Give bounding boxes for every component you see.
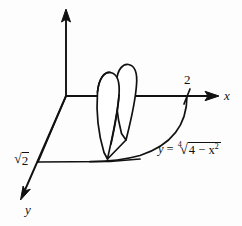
y-axis-label: y <box>25 203 31 216</box>
radical-index: 4 <box>178 141 182 149</box>
radicand-exponent: 2 <box>215 142 219 151</box>
figure-drawing <box>0 0 242 226</box>
figure-canvas: x y 2 √ 2 y = 4 √ 4 − x2 <box>0 0 242 226</box>
curve-equation-label: y = 4 √ 4 − x2 <box>158 140 221 157</box>
sqrt-radicand: 2 <box>22 152 30 168</box>
radicand: 4 − x2 <box>188 142 221 157</box>
base-region-left-edge <box>38 96 66 162</box>
x-axis-label: x <box>224 89 230 102</box>
equation-lhs: y <box>158 143 164 156</box>
fourth-root-radical: 4 √ 4 − x2 <box>178 142 221 157</box>
sqrt-sign: √ <box>14 152 22 165</box>
x-tick-label-2: 2 <box>184 73 191 86</box>
z-axis <box>62 9 71 96</box>
radicand-base: 4 − x <box>189 143 215 157</box>
cross-section-slab <box>97 64 137 159</box>
y-tick-label-sqrt2: √ 2 <box>14 150 29 168</box>
equation-equals-sign: = <box>167 143 174 156</box>
x-axis <box>66 91 219 100</box>
